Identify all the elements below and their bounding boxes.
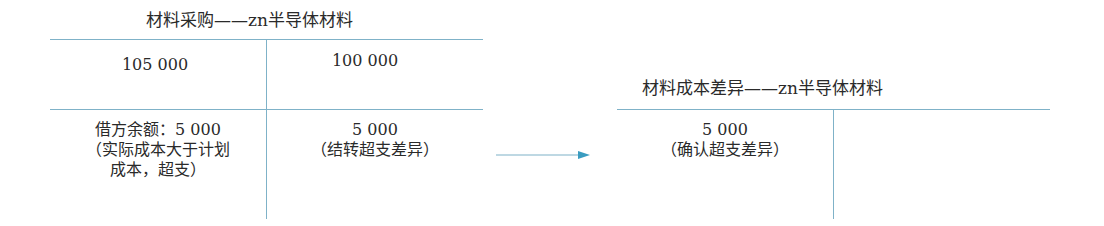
left-account-title: 材料采购——zn半导体材料 [146, 6, 353, 31]
variance-label: （确认超支差异） [617, 140, 833, 160]
left-credit-amount: 100 000 [310, 51, 420, 71]
right-account-title: 材料成本差异——zn半导体材料 [642, 74, 883, 99]
transfer-amount: 5 000 [267, 120, 483, 140]
transfer-label: （结转超支差异） [267, 140, 483, 160]
left-credit-transfer: 5 000 （结转超支差异） [267, 120, 483, 160]
balance-line-1: 借方余额：5 000 [50, 120, 266, 140]
balance-line-3: 成本，超支） [50, 160, 266, 180]
right-arrow-icon [494, 148, 594, 162]
left-account-middle-line [50, 109, 483, 110]
left-debit-balance: 借方余额：5 000 （实际成本大于计划 成本，超支） [50, 120, 266, 180]
right-account-divider [833, 109, 834, 219]
left-debit-amount: 105 000 [100, 55, 210, 75]
variance-amount: 5 000 [617, 120, 833, 140]
right-debit-entry: 5 000 （确认超支差异） [617, 120, 833, 160]
balance-line-2: （实际成本大于计划 [50, 140, 266, 160]
